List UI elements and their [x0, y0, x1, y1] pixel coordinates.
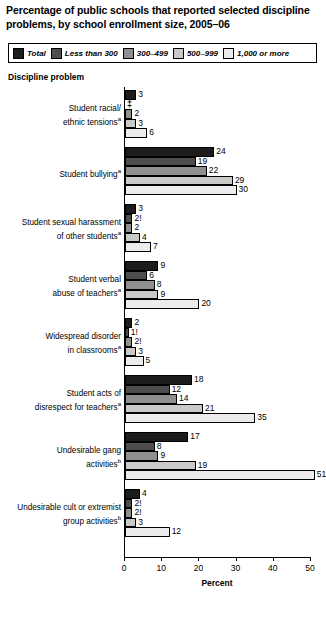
- bar[interactable]: [125, 157, 196, 167]
- legend-item[interactable]: Less than 300: [51, 48, 118, 59]
- legend-item[interactable]: 1,000 or more: [223, 48, 289, 59]
- bar-row[interactable]: 4: [125, 489, 181, 499]
- axis-tick-label: 40: [268, 563, 277, 573]
- axis-tick-label: 50: [305, 563, 314, 573]
- bar[interactable]: [125, 166, 207, 176]
- bar-row[interactable]: 19: [125, 461, 326, 471]
- bar-stack: 3‡236: [125, 90, 154, 138]
- bar-row[interactable]: 7: [125, 242, 158, 252]
- bar[interactable]: [125, 518, 136, 528]
- bar[interactable]: [125, 185, 237, 195]
- bar-group-label-line: Student verbal: [1, 275, 121, 285]
- bar[interactable]: [125, 527, 170, 537]
- bar[interactable]: [125, 271, 147, 281]
- bar-row[interactable]: 22: [125, 166, 248, 176]
- bar-row[interactable]: 8: [125, 280, 211, 290]
- bar-group-label: Student acts ofdisrespect for teachersa: [1, 389, 121, 413]
- bar-row[interactable]: 24: [125, 147, 248, 157]
- bar[interactable]: [125, 176, 233, 186]
- bar-row[interactable]: 12: [125, 385, 267, 395]
- bar[interactable]: [125, 109, 132, 119]
- legend-swatch-icon: [173, 48, 184, 59]
- bar-row[interactable]: 6: [125, 128, 154, 138]
- bar[interactable]: [125, 356, 144, 366]
- bar-row[interactable]: 2!: [125, 214, 158, 224]
- bar-row[interactable]: 6: [125, 271, 211, 281]
- bar[interactable]: [125, 233, 140, 243]
- bar[interactable]: [125, 299, 199, 309]
- bar[interactable]: [125, 328, 129, 338]
- value-axis-line: [124, 557, 310, 558]
- bar-row[interactable]: 2!: [125, 499, 181, 509]
- bar-group-label-line: Student sexual harassment: [1, 218, 121, 228]
- bar[interactable]: [125, 413, 255, 423]
- bar-group-label-line: Student racial/: [1, 104, 121, 114]
- bar[interactable]: [125, 337, 132, 347]
- footnote-marker: a: [118, 116, 121, 122]
- bar-group-label-line: Undesirable cult or extremist: [1, 503, 121, 513]
- bar-group: Undesirable cult or extremistgroup activ…: [0, 486, 323, 543]
- bar-row[interactable]: 21: [125, 404, 267, 414]
- bar[interactable]: [125, 290, 158, 300]
- bar-row[interactable]: 35: [125, 413, 267, 423]
- axis-tick: [124, 557, 125, 561]
- bar-value-label: 9: [160, 261, 165, 271]
- bar[interactable]: [125, 394, 177, 404]
- bar-value-label: 22: [209, 166, 218, 176]
- bar-row[interactable]: 19: [125, 157, 248, 167]
- bar[interactable]: [125, 508, 132, 518]
- bar-row[interactable]: 8: [125, 442, 326, 452]
- bar[interactable]: [125, 385, 170, 395]
- bar-row[interactable]: 14: [125, 394, 267, 404]
- bar-group: Student bullyinga2419222930: [0, 144, 323, 201]
- bar[interactable]: [125, 347, 136, 357]
- bar-group-label: Widespread disorderin classroomsa: [1, 332, 121, 356]
- bar-group-label-line: of other studentsa: [1, 228, 121, 242]
- bar-group-label-line: activitiesb: [1, 456, 121, 470]
- bar-row[interactable]: 12: [125, 527, 181, 537]
- bar[interactable]: [125, 375, 192, 385]
- bar-row[interactable]: 5: [125, 356, 150, 366]
- bar-row[interactable]: 51: [125, 470, 326, 480]
- legend-item[interactable]: 500–999: [173, 48, 218, 59]
- footnote-marker: a: [118, 344, 121, 350]
- bar[interactable]: [125, 119, 136, 129]
- bar[interactable]: [125, 470, 315, 480]
- bar-group-label-line: Student bullyinga: [1, 166, 121, 180]
- bar[interactable]: [125, 404, 203, 414]
- bar-value-label: 9: [160, 451, 165, 461]
- bar-row[interactable]: 29: [125, 176, 248, 186]
- bar-group-label-line: Widespread disorder: [1, 332, 121, 342]
- footnote-marker: a: [118, 230, 121, 236]
- bar-value-label: 3: [138, 119, 143, 129]
- bar-value-label: 17: [190, 432, 199, 442]
- bar-value-label: 18: [194, 375, 203, 385]
- bar-value-label: 4: [142, 233, 147, 243]
- bar[interactable]: [125, 442, 155, 452]
- chart-legend: TotalLess than 300300–499500–9991,000 or…: [8, 43, 317, 63]
- axis-tick-label: 30: [231, 563, 240, 573]
- bar-row[interactable]: ‡: [125, 100, 154, 110]
- bar[interactable]: [125, 214, 132, 224]
- bar[interactable]: [125, 499, 132, 509]
- bar-row[interactable]: 30: [125, 185, 248, 195]
- bar-row[interactable]: 17: [125, 432, 326, 442]
- bar[interactable]: [125, 280, 155, 290]
- bar[interactable]: [125, 223, 132, 233]
- bar-group-label: Student sexual harassmentof other studen…: [1, 218, 121, 242]
- bar-value-label: 3: [138, 518, 143, 528]
- bar[interactable]: [125, 451, 158, 461]
- bar-row[interactable]: 9: [125, 290, 211, 300]
- legend-swatch-icon: [51, 48, 62, 59]
- bar[interactable]: [125, 128, 147, 138]
- legend-item[interactable]: 300–499: [123, 48, 168, 59]
- legend-item[interactable]: Total: [13, 48, 46, 59]
- bar[interactable]: [125, 242, 151, 252]
- bar[interactable]: [125, 461, 196, 471]
- bar-row[interactable]: 18: [125, 375, 267, 385]
- bar-row[interactable]: 9: [125, 451, 326, 461]
- bar-group-label: Undesirable gangactivitiesb: [1, 446, 121, 470]
- bar-row[interactable]: 20: [125, 299, 211, 309]
- bar-row[interactable]: 9: [125, 261, 211, 271]
- bar-row[interactable]: 2!: [125, 508, 181, 518]
